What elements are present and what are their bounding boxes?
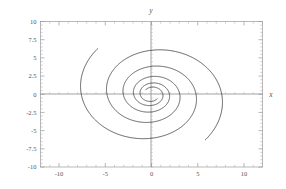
x-tick-label: 5 (196, 170, 199, 177)
x-tick-label: 10 (241, 170, 248, 177)
y-tick-label: -7.5 (26, 145, 36, 152)
y-tick-label: 5 (33, 54, 36, 61)
y-tick-label: -10 (28, 163, 37, 170)
y-tick-label: 10 (30, 18, 37, 25)
y-tick-label: 7.5 (28, 36, 36, 43)
y-tick-label: 2.5 (28, 72, 36, 79)
y-axis-tick-labels: -10-7.5-5-2.502.557.510 (26, 18, 36, 171)
x-tick-label: -10 (55, 170, 64, 177)
y-axis-label: y (148, 6, 153, 15)
plot-canvas: -10-50510 -10-7.5-5-2.502.557.510 y x (0, 0, 286, 189)
x-axis-label: x (268, 90, 273, 99)
spiral-trajectory (107, 50, 223, 140)
y-tick-label: -5 (31, 127, 36, 134)
x-axis-tick-labels: -10-50510 (55, 170, 248, 177)
y-tick-label: -2.5 (26, 109, 36, 116)
y-tick-label: 0 (33, 91, 36, 98)
x-tick-label: 0 (150, 170, 153, 177)
x-tick-label: -5 (103, 170, 108, 177)
spiral-phase-portrait-figure: -10-50510 -10-7.5-5-2.502.557.510 y x (0, 0, 286, 189)
